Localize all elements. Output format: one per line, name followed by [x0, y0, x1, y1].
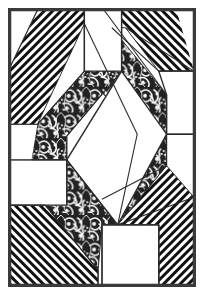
- quilt-canvas: [10, 10, 194, 285]
- piece-patch-left-lower: [10, 160, 67, 205]
- quilt-block-diagram: Patchwork Quilt Block Diagram Diagonal s…: [0, 0, 204, 295]
- piece-patch-bottom-center: [102, 225, 159, 285]
- quilt-frame-border: [8, 8, 196, 287]
